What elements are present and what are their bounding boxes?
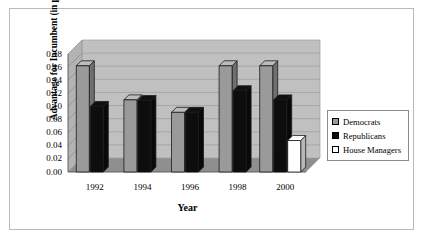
x-axis-title: Year [55, 202, 320, 213]
x-tick-label-1998: 1998 [218, 182, 258, 192]
bar-1992-democrats-front [76, 66, 89, 172]
y-axis-title: Advantage for Incumbent (in percent) [49, 0, 67, 125]
bar-2000-house-managers-side [301, 136, 306, 172]
x-tick-label-1994: 1994 [122, 182, 162, 192]
bar-2000-republicans-front [274, 100, 287, 172]
bar-1996-democrats-front [172, 112, 185, 172]
bar-1992-republicans-front [90, 106, 103, 172]
x-tick-label-1992: 1992 [75, 182, 115, 192]
bar-2000-democrats-front [260, 66, 273, 172]
bar-1996-republicans-side [199, 107, 204, 172]
legend-swatch-republicans-icon [332, 132, 339, 139]
bar-1994-republicans-side [151, 96, 156, 172]
y-tick-label-0.06: 0.06 [32, 128, 62, 137]
bar-1994-republicans-front [138, 101, 151, 172]
legend-label-democrats: Democrats [343, 117, 380, 127]
x-tick-label-2000: 2000 [265, 182, 305, 192]
bar-1992-republicans-side [103, 101, 108, 172]
chart-screenshot: 0.000.020.040.060.080.100.120.140.160.18… [0, 0, 424, 239]
bar-1998-republicans-side [246, 86, 251, 172]
legend-label-republicans: Republicans [343, 131, 385, 141]
y-tick-label-0.02: 0.02 [32, 154, 62, 163]
bar-1998-republicans-front [233, 91, 246, 172]
legend-item-house-managers: House Managers [332, 143, 405, 156]
bar-2000-house-managers-front [288, 141, 301, 172]
y-tick-label-0.00: 0.00 [32, 168, 62, 177]
bar-1998-democrats-front [219, 66, 232, 172]
legend-swatch-house-managers-icon [332, 146, 339, 153]
legend-swatch-democrats-icon [332, 118, 339, 125]
bar-1994-democrats-front [124, 100, 137, 172]
legend-item-democrats: Democrats [332, 115, 405, 128]
y-tick-label-0.04: 0.04 [32, 141, 62, 150]
chart-legend: Democrats Republicans House Managers [327, 110, 409, 161]
bar-1996-republicans-front [186, 112, 199, 172]
x-tick-label-1996: 1996 [170, 182, 210, 192]
legend-label-house-managers: House Managers [343, 145, 401, 155]
legend-item-republicans: Republicans [332, 129, 405, 142]
